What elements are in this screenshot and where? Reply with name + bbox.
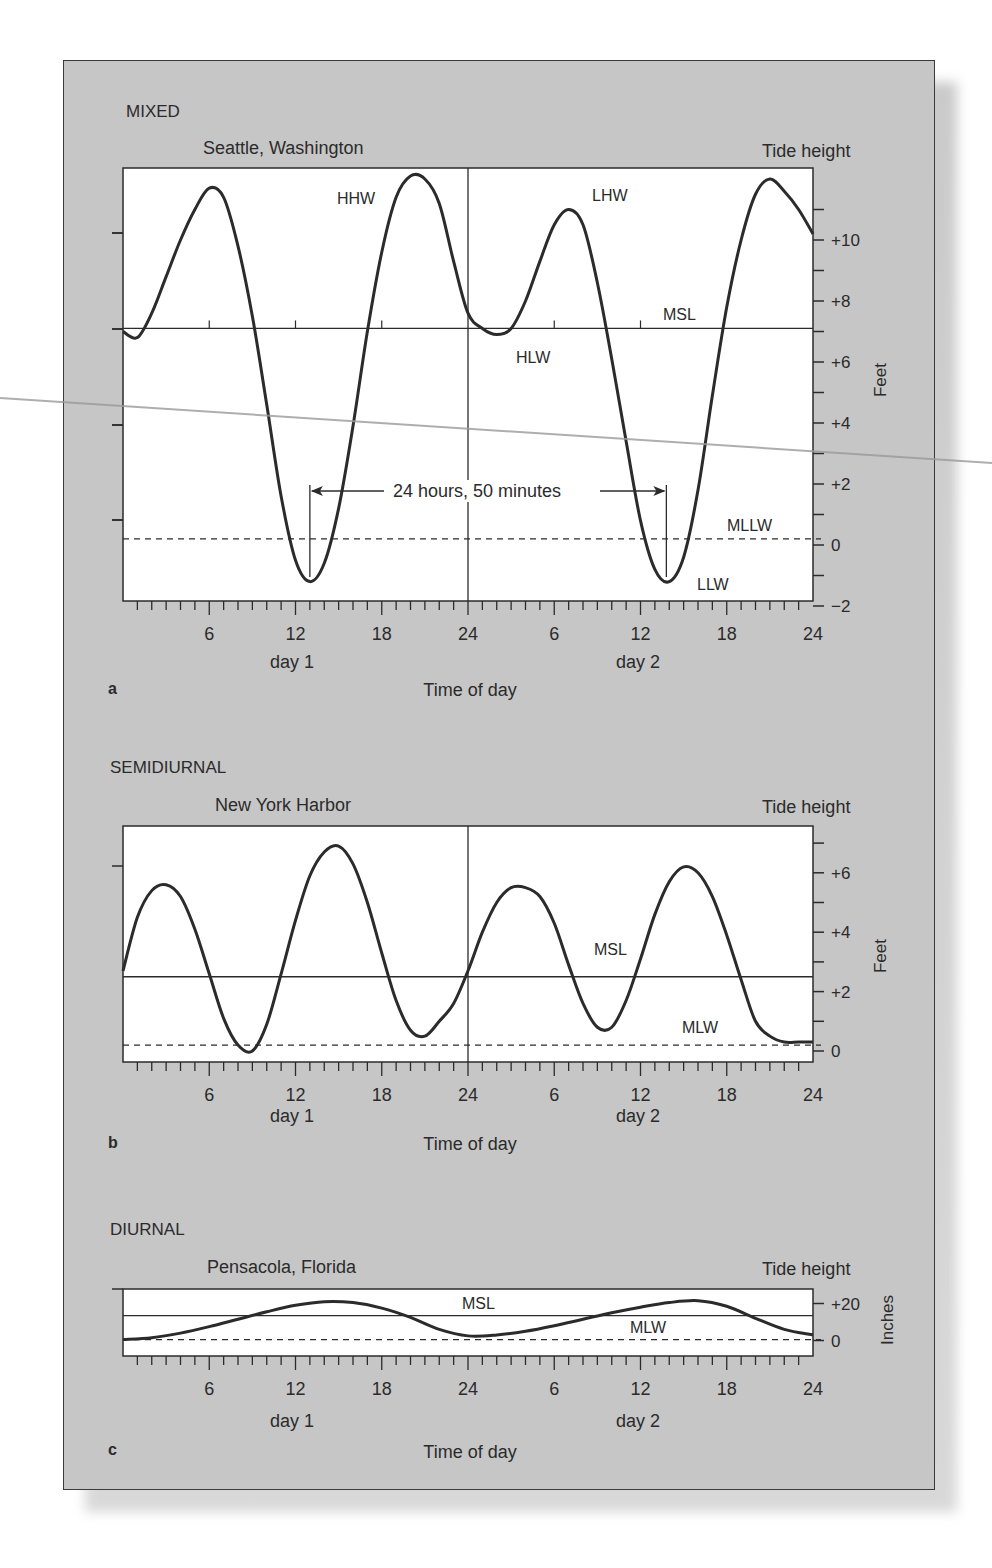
unit-label: Feet [871, 939, 890, 973]
panel-a: MIXED Seattle, Washington Tide height HH… [108, 102, 890, 700]
y-tick-label: +6 [831, 353, 850, 372]
x-tick-label: 6 [204, 624, 214, 644]
x-tick-label: 18 [372, 1085, 392, 1105]
x-tick-label: 6 [549, 624, 559, 644]
y-tick-label: 0 [831, 1042, 840, 1061]
y-tick-label: +4 [831, 414, 850, 433]
location-label: Seattle, Washington [203, 138, 363, 158]
y-tick-label: 0 [831, 1332, 840, 1351]
x-tick-label: 18 [717, 624, 737, 644]
x-tick-label: 12 [285, 1379, 305, 1399]
annotation-mlw: MLW [630, 1319, 667, 1336]
x-axis-ticks: 61218246121824 [137, 1356, 823, 1399]
x-tick-label: 18 [717, 1085, 737, 1105]
panel-type-label: DIURNAL [110, 1220, 185, 1239]
day-1-label: day 1 [270, 652, 314, 672]
panel-type-label: SEMIDIURNAL [110, 758, 226, 777]
x-tick-label: 12 [630, 1379, 650, 1399]
tide-figure: MIXED Seattle, Washington Tide height HH… [0, 0, 992, 1568]
tide-height-title: Tide height [762, 1259, 850, 1279]
x-tick-label: 6 [204, 1379, 214, 1399]
x-tick-label: 12 [285, 1085, 305, 1105]
x-tick-label: 12 [630, 1085, 650, 1105]
x-tick-label: 6 [204, 1085, 214, 1105]
day-2-label: day 2 [616, 1411, 660, 1431]
unit-label: Inches [878, 1295, 897, 1345]
tide-height-title: Tide height [762, 797, 850, 817]
y-tick-label: +20 [831, 1295, 860, 1314]
x-tick-label: 24 [803, 624, 823, 644]
annotation-hhw: HHW [337, 190, 376, 207]
day-2-label: day 2 [616, 1106, 660, 1126]
x-tick-label: 24 [458, 624, 478, 644]
tide-height-title: Tide height [762, 141, 850, 161]
y-tick-label: −2 [831, 597, 850, 616]
y-tick-label: +10 [831, 231, 860, 250]
x-tick-label: 6 [549, 1085, 559, 1105]
annotation-lhw: LHW [592, 187, 628, 204]
panel-letter: a [108, 680, 117, 697]
annotation-hlw: HLW [516, 349, 551, 366]
x-tick-label: 12 [285, 624, 305, 644]
annotation-mllw: MLLW [727, 517, 773, 534]
x-tick-label: 12 [630, 624, 650, 644]
x-axis-title: Time of day [423, 1134, 516, 1154]
panel-letter: c [108, 1441, 117, 1458]
y-tick-label: +4 [831, 923, 850, 942]
x-tick-label: 24 [803, 1379, 823, 1399]
x-axis-ticks: 61218246121824 [137, 1062, 823, 1105]
location-label: Pensacola, Florida [207, 1257, 357, 1277]
x-tick-label: 24 [458, 1379, 478, 1399]
day-1-label: day 1 [270, 1106, 314, 1126]
annotation-mlw: MLW [682, 1019, 719, 1036]
y-tick-label: +2 [831, 475, 850, 494]
y-tick-label: +8 [831, 292, 850, 311]
annotation-llw: LLW [697, 576, 730, 593]
x-axis-title: Time of day [423, 680, 516, 700]
unit-label: Feet [871, 363, 890, 397]
day-2-label: day 2 [616, 652, 660, 672]
panel-type-label: MIXED [126, 102, 180, 121]
y-tick-label: 0 [831, 536, 840, 555]
location-label: New York Harbor [215, 795, 351, 815]
y-tick-label: +6 [831, 864, 850, 883]
interval-annotation: 24 hours, 50 minutes [393, 481, 561, 501]
x-tick-label: 24 [803, 1085, 823, 1105]
annotation-msl: MSL [594, 941, 627, 958]
annotation-msl: MSL [663, 306, 696, 323]
panel-letter: b [108, 1134, 118, 1151]
panel-b: SEMIDIURNAL New York Harbor Tide height … [108, 758, 890, 1154]
x-axis-title: Time of day [423, 1442, 516, 1462]
panel-c: DIURNAL Pensacola, Florida Tide height M… [108, 1220, 897, 1462]
x-tick-label: 18 [372, 624, 392, 644]
x-tick-label: 18 [717, 1379, 737, 1399]
x-tick-label: 18 [372, 1379, 392, 1399]
annotation-msl: MSL [462, 1295, 495, 1312]
x-tick-label: 6 [549, 1379, 559, 1399]
y-tick-label: +2 [831, 983, 850, 1002]
x-tick-label: 24 [458, 1085, 478, 1105]
day-1-label: day 1 [270, 1411, 314, 1431]
x-axis-ticks: 61218246121824 [137, 601, 823, 644]
